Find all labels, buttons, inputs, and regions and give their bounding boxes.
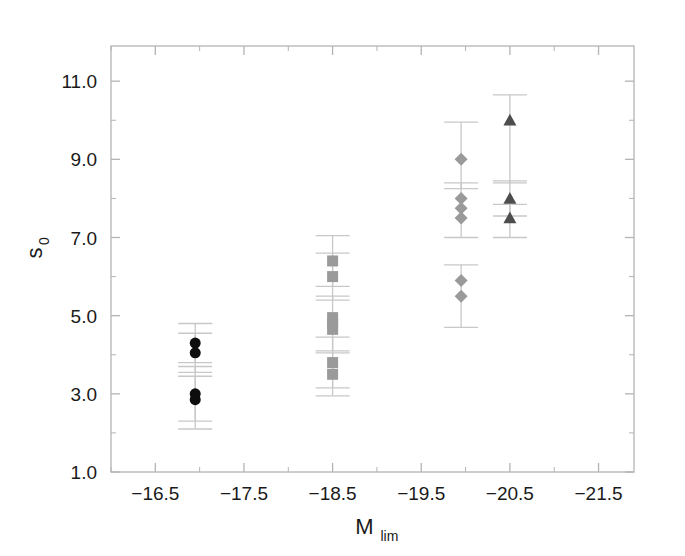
data-point-square — [327, 271, 338, 282]
data-point-square — [327, 369, 338, 380]
figure-panel: 11.09.07.05.03.01.0−16.5−17.5−18.5−19.5−… — [0, 0, 685, 556]
x-axis-tick-label: −18.5 — [309, 483, 357, 504]
x-axis-tick-label: −20.5 — [486, 483, 534, 504]
data-point-circle — [190, 347, 201, 358]
data-point-circle — [190, 394, 201, 405]
y-axis-tick-label: 5.0 — [71, 306, 97, 327]
data-point-square — [327, 324, 338, 335]
y-axis-tick-label: 9.0 — [71, 149, 97, 170]
x-axis-tick-label: −17.5 — [220, 483, 268, 504]
scatter-plot: 11.09.07.05.03.01.0−16.5−17.5−18.5−19.5−… — [0, 0, 685, 556]
data-point-circle — [190, 338, 201, 349]
y-axis-tick-label: 7.0 — [71, 228, 97, 249]
x-axis-tick-label: −16.5 — [131, 483, 179, 504]
y-axis-tick-label: 1.0 — [71, 462, 97, 483]
x-axis-tick-label: −19.5 — [397, 483, 445, 504]
svg-text:lim: lim — [381, 528, 399, 544]
svg-text:0: 0 — [36, 237, 52, 245]
y-axis-tick-label: 3.0 — [71, 384, 97, 405]
svg-text:s: s — [22, 248, 47, 259]
svg-text:M: M — [355, 514, 373, 539]
data-point-square — [327, 357, 338, 368]
y-axis-tick-label: 11.0 — [61, 71, 97, 92]
x-axis-tick-label: −21.5 — [575, 483, 623, 504]
data-point-square — [327, 255, 338, 266]
